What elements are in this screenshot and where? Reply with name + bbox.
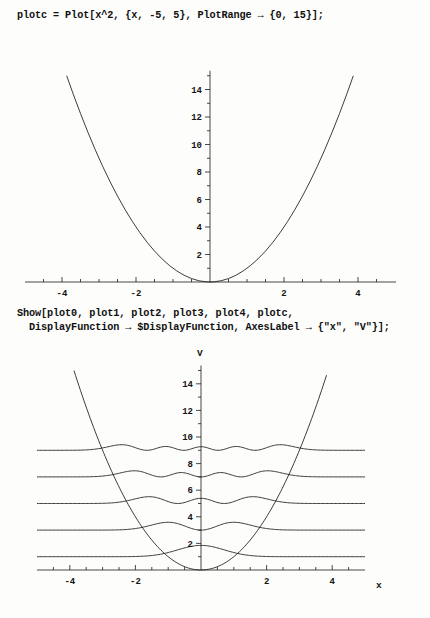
x-tick-label: -2 — [131, 289, 142, 298]
plot-wavefunctions-tick-labels: -4-2242468101214 — [64, 380, 335, 587]
input-cell-show[interactable]: Show[plot0, plot1, plot2, plot3, plot4, … — [17, 307, 390, 334]
y-tick-label: 6 — [197, 196, 202, 206]
plot-parabola-axes — [25, 71, 396, 282]
input-cell-plotc[interactable]: plotc = Plot[x^2, {x, -5, 5}, PlotRange … — [17, 9, 324, 23]
x-tick-label: 4 — [329, 577, 335, 587]
notebook-page: plotc = Plot[x^2, {x, -5, 5}, PlotRange … — [0, 0, 430, 618]
y-tick-label: 14 — [182, 380, 193, 390]
plot-wavefunctions-axes — [37, 366, 365, 571]
plot-wavefunctions-svg: -4-2242468101214 x V — [0, 340, 430, 615]
y-tick-label: 4 — [197, 223, 203, 233]
y-tick-label: 14 — [191, 86, 202, 96]
x-tick-label: -4 — [57, 289, 68, 298]
y-tick-label: 8 — [197, 168, 202, 178]
plot-wavefunctions: -4-2242468101214 x V — [0, 340, 430, 615]
plot-parabola-tick-labels: -4-2242468101214 — [57, 86, 362, 298]
curve-potential — [74, 371, 327, 570]
x-tick-label: 4 — [355, 289, 361, 298]
x-tick-label: 2 — [281, 289, 286, 298]
x-tick-label: -4 — [64, 577, 75, 587]
y-tick-label: 12 — [182, 407, 193, 417]
y-tick-label: 10 — [191, 141, 202, 151]
y-tick-label: 8 — [188, 460, 193, 470]
y-tick-label: 2 — [197, 251, 202, 261]
x-tick-label: -2 — [130, 577, 141, 587]
y-tick-label: 2 — [188, 540, 193, 550]
y-tick-label: 10 — [182, 433, 193, 443]
y-tick-label: 4 — [188, 513, 194, 523]
y-tick-label: 6 — [188, 486, 193, 496]
plot-parabola: -4-2242468101214 — [0, 36, 430, 298]
axis-label-x: x — [376, 580, 382, 591]
axis-label-y: V — [197, 348, 203, 359]
x-tick-label: 2 — [264, 577, 269, 587]
y-tick-label: 12 — [191, 113, 202, 123]
plot-parabola-svg: -4-2242468101214 — [0, 36, 430, 298]
